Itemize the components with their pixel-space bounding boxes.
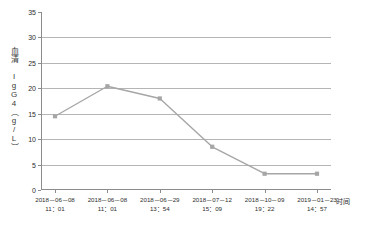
series-igg4 — [41, 12, 331, 190]
x-tick-label-time: 13：54 — [140, 204, 180, 213]
y-tick-label: 10 — [28, 136, 36, 143]
data-point-marker — [105, 84, 109, 88]
data-point-marker — [158, 96, 162, 100]
y-tick-label: 15 — [28, 110, 36, 117]
x-tick-label: 2018－06－0811：01 — [88, 195, 128, 213]
y-tick-label: 35 — [28, 9, 36, 16]
x-tick-label-date: 2018－07－12 — [192, 196, 232, 203]
series-line — [55, 86, 317, 173]
x-tick-label-time: 11：01 — [88, 204, 128, 213]
x-tick-label: 2018－07－1215：09 — [192, 195, 232, 213]
series-markers — [53, 84, 319, 176]
line-chart: 血清 IgG4（g/L） 05101520253035 2018－06－0811… — [0, 0, 385, 239]
x-tick-label-time: 14：57 — [297, 204, 337, 213]
x-tick-label-time: 11：01 — [35, 204, 75, 213]
x-tick-label-date: 2018－06－08 — [88, 196, 128, 203]
y-axis-title: 血清 IgG4（g/L） — [2, 14, 26, 184]
data-point-marker — [53, 114, 57, 118]
y-tick-label: 5 — [32, 161, 36, 168]
data-point-marker — [263, 172, 267, 176]
x-tick-label-date: 2018－06－08 — [35, 196, 75, 203]
x-tick-label-time: 15：09 — [192, 204, 232, 213]
x-tick-mark — [317, 190, 318, 193]
x-tick-label: 2018－06－2913：54 — [140, 195, 180, 213]
x-tick-label-date: 2019－01－23 — [297, 196, 337, 203]
x-tick-mark — [55, 190, 56, 193]
x-tick-mark — [212, 190, 213, 193]
y-tick-label: 20 — [28, 85, 36, 92]
x-tick-label-time: 19：22 — [245, 204, 285, 213]
x-tick-label: 2019－01－2314：57 — [297, 195, 337, 213]
y-tick-label: 30 — [28, 34, 36, 41]
data-point-marker — [210, 145, 214, 149]
x-tick-mark — [265, 190, 266, 193]
plot-area: 05101520253035 2018－06－0811：012018－06－08… — [41, 12, 331, 190]
y-tick-label: 0 — [32, 187, 36, 194]
x-tick-label-date: 2018－06－29 — [140, 196, 180, 203]
x-tick-mark — [160, 190, 161, 193]
x-axis-title: 时间 — [336, 196, 350, 206]
y-tick-label: 25 — [28, 59, 36, 66]
x-tick-label: 2018－06－0811：01 — [35, 195, 75, 213]
x-tick-mark — [107, 190, 108, 193]
x-tick-label: 2018－10－0919：22 — [245, 195, 285, 213]
data-point-marker — [315, 172, 319, 176]
x-tick-label-date: 2018－10－09 — [245, 196, 285, 203]
y-tick-mark — [38, 190, 41, 191]
